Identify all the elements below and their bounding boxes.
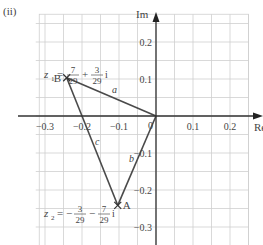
side-c-label: c: [95, 136, 100, 147]
svg-text:i: i: [105, 69, 108, 80]
svg-text:29: 29: [76, 215, 86, 225]
imaginary-axis-ticks: 0.20.1−0.1−0.2−0.3: [134, 37, 152, 233]
svg-text:7: 7: [71, 65, 76, 75]
svg-text:z: z: [43, 207, 49, 219]
svg-text:3: 3: [78, 204, 83, 214]
y-tick-label: 0.1: [140, 74, 153, 85]
x-tick-label: −0.1: [110, 121, 128, 132]
point-label-A: A: [123, 199, 131, 211]
svg-text:29: 29: [69, 76, 79, 86]
part-label: (ii): [3, 5, 17, 18]
svg-text:i: i: [112, 208, 115, 219]
argand-diagram: (ii) Re Im 0 −0.3−0.2−0.10.10.2 0.20.1−0…: [0, 0, 263, 245]
y-tick-label: 0.2: [140, 37, 153, 48]
svg-text:2: 2: [51, 214, 55, 222]
real-axis-ticks: −0.3−0.2−0.10.10.2: [36, 121, 236, 132]
y-tick-label: −0.3: [134, 222, 152, 233]
y-tick-label: −0.2: [134, 185, 152, 196]
svg-text:=: =: [57, 68, 63, 80]
origin-label: 0: [148, 120, 153, 131]
y-tick-label: −0.1: [134, 148, 152, 159]
real-axis-arrow-icon: [253, 113, 263, 120]
point-B-expression: z1=729+329i: [43, 65, 108, 86]
svg-text:7: 7: [102, 204, 107, 214]
svg-text:29: 29: [93, 76, 103, 86]
x-tick-label: 0.2: [224, 121, 237, 132]
svg-text:29: 29: [100, 215, 110, 225]
side-b-label: b: [129, 153, 134, 164]
imaginary-axis-arrow-icon: [153, 12, 160, 22]
point-A-expression: z2= −329−729i: [43, 204, 115, 225]
svg-text:z: z: [43, 68, 49, 80]
side-a-label: a: [112, 84, 117, 95]
svg-text:+: +: [82, 68, 88, 80]
x-tick-label: −0.3: [36, 121, 54, 132]
imaginary-axis-label: Im: [136, 8, 149, 20]
svg-text:3: 3: [95, 65, 100, 75]
x-tick-label: −0.2: [73, 121, 91, 132]
point-A: [114, 202, 121, 209]
axes: [18, 20, 256, 245]
x-tick-label: 0.1: [187, 121, 200, 132]
svg-text:−: −: [89, 207, 95, 219]
svg-text:1: 1: [51, 75, 55, 83]
svg-text:= −: = −: [57, 207, 72, 219]
points: Bz1=729+329iAz2= −329−729i: [43, 65, 131, 225]
real-axis-label: Re: [254, 121, 263, 133]
